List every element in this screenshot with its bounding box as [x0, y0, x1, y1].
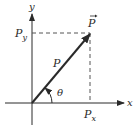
vector-diagram: y x Py Px P P θ: [0, 0, 137, 130]
vector-arrow-accent-tip: [95, 15, 98, 18]
angle-arc-icon: [45, 88, 52, 103]
theta-label: θ: [57, 87, 63, 98]
px-label: Px: [83, 108, 96, 123]
y-axis-label: y: [28, 1, 35, 12]
magnitude-label: P: [52, 57, 61, 70]
py-label: Py: [14, 27, 27, 42]
vector-p-label: P: [87, 17, 96, 30]
x-axis-label: x: [127, 97, 133, 108]
